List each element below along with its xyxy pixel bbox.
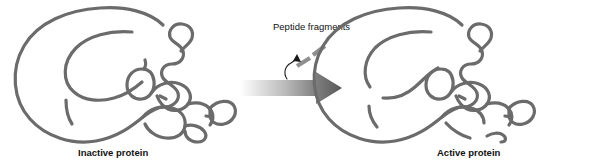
junction-tick-b (206, 116, 212, 117)
junction-tick-a (160, 96, 166, 99)
right-arrow-icon (240, 72, 342, 104)
wavy-tail-top (162, 24, 193, 107)
bowtie-lower-active-broken (487, 133, 505, 142)
connector-left (66, 100, 72, 124)
small-loop-center-active (426, 69, 453, 99)
transition-arrow-group (240, 72, 342, 104)
junction-tick-a-active (459, 96, 465, 99)
connector-left-active-stub (369, 106, 377, 127)
active-protein-caption: Active protein (437, 147, 501, 158)
diagram-canvas: Inactive protein Peptide fragments (0, 0, 593, 164)
connector-small-loop (144, 60, 146, 69)
lower-lobe-active-broken-right (446, 123, 470, 138)
inactive-protein-caption: Inactive protein (78, 147, 148, 158)
backbone-outer-loop (15, 8, 166, 142)
bowtie-lower (185, 125, 206, 142)
lower-lobe (143, 107, 185, 138)
junction-tick-b-active (505, 116, 511, 117)
curved-up-arrow-head-icon (293, 54, 301, 62)
lower-lobe-active-broken-left (442, 107, 484, 123)
protein-activation-diagram: Inactive protein Peptide fragments (0, 0, 593, 164)
inactive-protein-group (15, 8, 235, 142)
backbone-inner-loop (65, 32, 142, 101)
backbone-outer-loop-active (314, 8, 465, 142)
backbone-inner-loop-active-broken (365, 32, 431, 87)
wavy-tail-top-active (461, 24, 492, 107)
